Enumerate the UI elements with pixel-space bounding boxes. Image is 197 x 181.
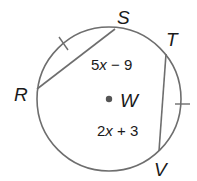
chord-rs-length: 5x − 9 (91, 56, 132, 73)
label-s: S (117, 7, 130, 28)
chord-tv (159, 54, 166, 151)
label-v: V (154, 159, 169, 180)
tick-mark-arc-rs (59, 37, 68, 50)
label-t: T (166, 29, 179, 50)
chord-tv-length: 2x + 3 (97, 122, 138, 139)
center-dot (106, 96, 112, 102)
label-r: R (14, 84, 28, 105)
label-w: W (120, 90, 140, 111)
circle-diagram: S T R V W 5x − 9 2x + 3 (0, 0, 197, 181)
